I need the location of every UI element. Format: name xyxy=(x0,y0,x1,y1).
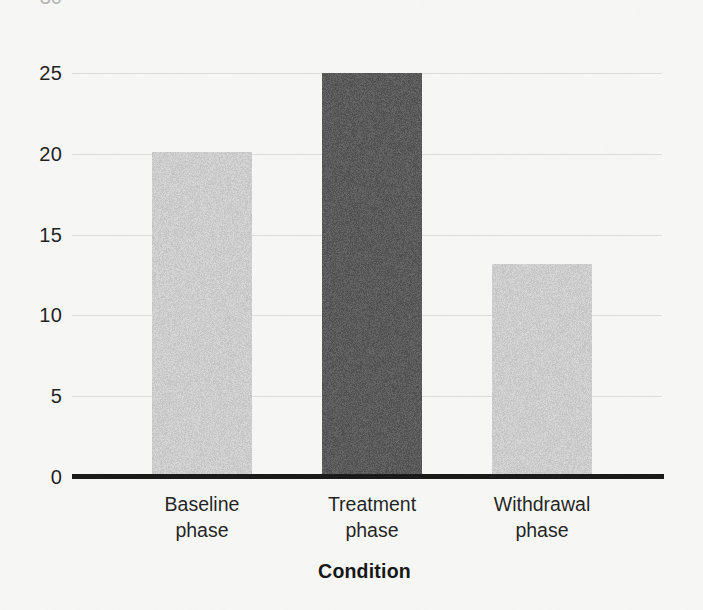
x-axis-category-label-line: Withdrawal xyxy=(447,492,637,518)
x-axis-title-text: Condition xyxy=(318,560,411,583)
y-axis-tick-label: 15 xyxy=(16,225,62,245)
x-axis-category-label-line: phase xyxy=(107,518,297,544)
x-axis-category-label: Baselinephase xyxy=(107,492,297,543)
bar-chart-figure: 30 0510152025 BaselinephaseTreatmentphas… xyxy=(0,0,703,610)
bar-withdrawal-phase xyxy=(492,264,592,477)
y-axis-tick-labels: 0510152025 xyxy=(10,0,62,610)
x-axis-title: Condition xyxy=(0,560,703,583)
y-axis-tick-label: 20 xyxy=(16,144,62,164)
x-axis-category-label: Treatmentphase xyxy=(277,492,467,543)
bar-baseline-phase xyxy=(152,152,252,477)
x-axis-category-label-line: phase xyxy=(277,518,467,544)
x-axis-category-label-line: phase xyxy=(447,518,637,544)
y-axis-tick-label: 0 xyxy=(16,467,62,487)
bar-treatment-phase xyxy=(322,73,422,477)
y-axis-tick-label: 10 xyxy=(16,305,62,325)
y-axis-tick-label: 5 xyxy=(16,386,62,406)
x-axis-category-label: Withdrawalphase xyxy=(447,492,637,543)
x-axis-line xyxy=(72,474,664,479)
plot-area xyxy=(72,10,662,477)
x-axis-category-label-line: Baseline xyxy=(107,492,297,518)
y-axis-tick-label: 25 xyxy=(16,63,62,83)
x-axis-category-label-line: Treatment xyxy=(277,492,467,518)
